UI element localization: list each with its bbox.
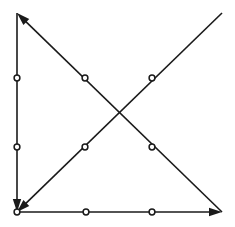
diagram-canvas	[0, 0, 235, 227]
marker-asc-lower	[82, 144, 88, 150]
marker-origin	[14, 209, 20, 215]
marker-left-lower	[14, 144, 20, 150]
diagram-svg	[0, 0, 235, 227]
marker-desc-upper	[82, 75, 88, 81]
marker-bottom-right-mid	[149, 209, 155, 215]
marker-bottom-left-mid	[83, 209, 89, 215]
marker-left-upper	[14, 75, 20, 81]
marker-asc-upper	[149, 75, 155, 81]
marker-desc-lower	[149, 144, 155, 150]
